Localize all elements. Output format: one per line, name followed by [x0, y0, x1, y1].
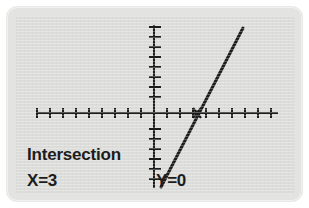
- x-value-readout: X=3: [27, 172, 57, 189]
- y-value-readout: Y=0: [156, 172, 186, 189]
- intersection-mode-label: Intersection: [27, 146, 121, 163]
- y-axis: [149, 25, 161, 188]
- calculator-bezel: Intersection X=3 Y=0: [6, 6, 303, 202]
- calculator-screenshot: Intersection X=3 Y=0: [0, 0, 309, 208]
- plotted-line: [161, 28, 243, 187]
- graph-canvas[interactable]: [16, 16, 295, 194]
- calculator-screen[interactable]: Intersection X=3 Y=0: [16, 16, 295, 194]
- x-axis: [36, 108, 278, 118]
